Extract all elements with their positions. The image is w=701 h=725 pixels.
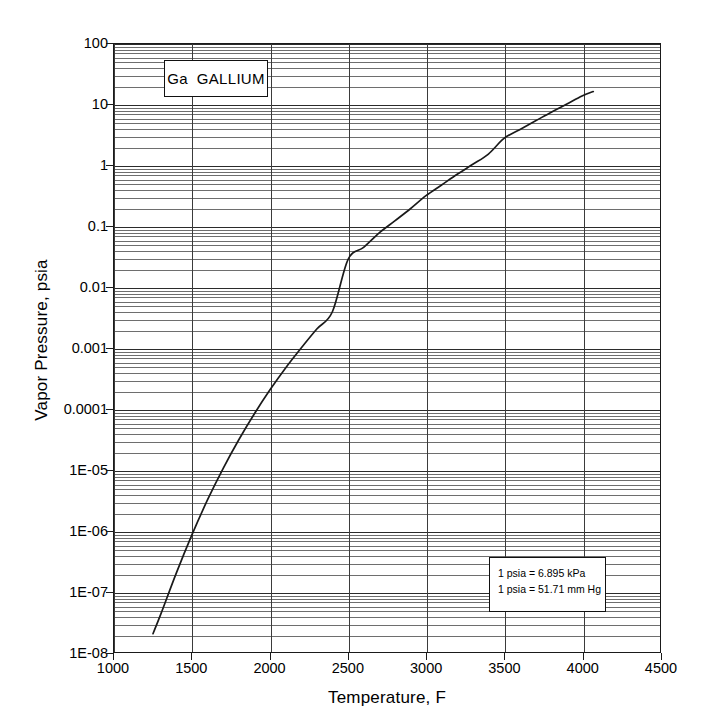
gridline-minor-horizontal [114, 111, 660, 112]
conversion-note-box: 1 psia = 6.895 kPa 1 psia = 51.71 mm Hg [489, 557, 606, 612]
gridline-vertical [192, 44, 193, 652]
gridline-minor-horizontal [114, 331, 660, 332]
gridline-minor-horizontal [114, 312, 660, 313]
gridline-minor-horizontal [114, 320, 660, 321]
x-tick-mark [661, 653, 662, 660]
gridline-minor-horizontal [114, 294, 660, 295]
gridline-minor-horizontal [114, 416, 660, 417]
gridline-vertical [349, 44, 350, 652]
x-axis-title: Temperature, F [113, 688, 661, 708]
gridline-minor-horizontal [114, 636, 660, 637]
gridline-major-horizontal [114, 349, 660, 350]
gridline-minor-horizontal [114, 302, 660, 303]
gridline-minor-horizontal [114, 477, 660, 478]
gridline-minor-horizontal [114, 114, 660, 115]
gridline-major-horizontal [114, 410, 660, 411]
gridline-major-horizontal [114, 532, 660, 533]
gridline-minor-horizontal [114, 550, 660, 551]
y-tick-mark [106, 287, 113, 288]
gridline-minor-horizontal [114, 367, 660, 368]
gridline-minor-horizontal [114, 381, 660, 382]
gridline-minor-horizontal [114, 442, 660, 443]
gridline-minor-horizontal [114, 503, 660, 504]
gridline-minor-horizontal [114, 541, 660, 542]
gridline-minor-horizontal [114, 148, 660, 149]
gridline-minor-horizontal [114, 175, 660, 176]
gridline-minor-horizontal [114, 241, 660, 242]
x-tick-label: 3000 [386, 661, 466, 676]
element-label-box: Ga GALLIUM [164, 60, 268, 97]
gridline-minor-horizontal [114, 453, 660, 454]
conversion-line-kpa: 1 psia = 6.895 kPa [498, 565, 605, 581]
gridline-vertical [114, 44, 115, 652]
y-tick-label: 100 [8, 36, 108, 51]
y-tick-label: 0.01 [8, 280, 108, 295]
gridline-minor-horizontal [114, 190, 660, 191]
y-tick-mark [106, 43, 113, 44]
y-tick-label: 1E-07 [8, 585, 108, 600]
gridline-minor-horizontal [114, 419, 660, 420]
gridline-minor-horizontal [114, 495, 660, 496]
x-tick-mark [426, 653, 427, 660]
x-tick-mark [191, 653, 192, 660]
y-tick-label: 1 [8, 158, 108, 173]
element-symbol: Ga [167, 70, 188, 87]
gridline-minor-horizontal [114, 169, 660, 170]
x-tick-mark [504, 653, 505, 660]
gridline-minor-horizontal [114, 209, 660, 210]
gridline-minor-horizontal [114, 485, 660, 486]
gridline-minor-horizontal [114, 137, 660, 138]
gridline-minor-horizontal [114, 50, 660, 51]
y-tick-mark [106, 531, 113, 532]
gridline-minor-horizontal [114, 413, 660, 414]
gridline-minor-horizontal [114, 355, 660, 356]
gridline-minor-horizontal [114, 306, 660, 307]
gridline-minor-horizontal [114, 424, 660, 425]
gridline-minor-horizontal [114, 245, 660, 246]
gridline-minor-horizontal [114, 538, 660, 539]
gridline-minor-horizontal [114, 480, 660, 481]
y-tick-mark [106, 592, 113, 593]
gridline-vertical [427, 44, 428, 652]
gridline-minor-horizontal [114, 489, 660, 490]
gridline-minor-horizontal [114, 123, 660, 124]
x-tick-mark [270, 653, 271, 660]
gridline-minor-horizontal [114, 129, 660, 130]
gridline-minor-horizontal [114, 233, 660, 234]
x-tick-label: 2000 [230, 661, 310, 676]
gridline-minor-horizontal [114, 108, 660, 109]
gridline-minor-horizontal [114, 358, 660, 359]
gridline-major-horizontal [114, 166, 660, 167]
gridline-minor-horizontal [114, 373, 660, 374]
y-tick-label: 0.001 [8, 341, 108, 356]
gridline-minor-horizontal [114, 184, 660, 185]
gridline-major-horizontal [114, 44, 660, 45]
gridline-major-horizontal [114, 227, 660, 228]
x-tick-label: 2500 [308, 661, 388, 676]
gridline-minor-horizontal [114, 291, 660, 292]
y-tick-label: 0.0001 [8, 402, 108, 417]
gridline-minor-horizontal [114, 270, 660, 271]
gridline-minor-horizontal [114, 230, 660, 231]
x-tick-label: 3500 [464, 661, 544, 676]
y-tick-mark [106, 165, 113, 166]
gridline-minor-horizontal [114, 352, 660, 353]
y-tick-label: 1E-06 [8, 524, 108, 539]
gridline-minor-horizontal [114, 428, 660, 429]
gridline-minor-horizontal [114, 392, 660, 393]
gridline-minor-horizontal [114, 259, 660, 260]
y-tick-mark [106, 409, 113, 410]
gridline-minor-horizontal [114, 236, 660, 237]
gridline-minor-horizontal [114, 474, 660, 475]
gridline-minor-horizontal [114, 180, 660, 181]
y-tick-mark [106, 348, 113, 349]
y-tick-label: 1E-05 [8, 463, 108, 478]
x-tick-label: 4500 [621, 661, 701, 676]
y-tick-mark [106, 470, 113, 471]
x-tick-label: 1500 [151, 661, 231, 676]
element-name: GALLIUM [197, 70, 265, 87]
gridline-minor-horizontal [114, 198, 660, 199]
gridline-minor-horizontal [114, 617, 660, 618]
gridline-minor-horizontal [114, 119, 660, 120]
gridline-minor-horizontal [114, 514, 660, 515]
